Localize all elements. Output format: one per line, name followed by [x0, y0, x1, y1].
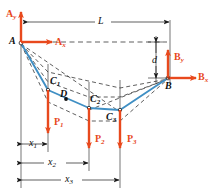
point-label-D: D	[60, 89, 67, 99]
force-label-Ax: Ax	[55, 37, 66, 49]
point-label-C1: C1	[50, 76, 60, 88]
dimension-label-x2: x2	[48, 157, 56, 169]
force-label-Ay: Ay	[6, 9, 16, 21]
dimension-label-x3: x3	[65, 174, 73, 186]
force-label-P1: P1	[54, 117, 64, 129]
force-label-Bx: Bx	[198, 72, 208, 84]
force-label-P2: P2	[95, 134, 105, 146]
point-label-C2: C2	[90, 94, 100, 106]
dimension-label-L: L	[98, 16, 104, 26]
force-label-P3: P3	[127, 134, 137, 146]
point-label-A: A	[9, 36, 16, 46]
point-label-B: B	[165, 81, 172, 91]
dimension-label-d: d	[152, 55, 157, 65]
point-label-C3: C3	[106, 112, 116, 124]
diagram-canvas	[0, 0, 213, 189]
dimension-label-x1: x1	[29, 138, 37, 150]
force-label-By: By	[174, 52, 184, 64]
cable-structure-diagram: A B D C1 C2 C3 Ay Ax By Bx P1 P2 P3 L d …	[0, 0, 213, 189]
